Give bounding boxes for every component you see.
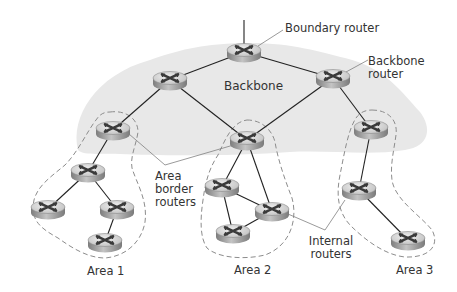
router-icon [391,232,425,251]
router-icon [354,121,388,140]
router-icon [153,72,187,91]
router-icon [71,164,105,183]
router-icon [316,70,350,89]
internal-label-line2: routers [306,248,356,261]
router-icon [255,203,289,222]
router-icon [227,44,261,63]
router-icon [96,122,130,141]
internal-routers-label: Internal routers [306,235,356,261]
area1-label: Area 1 [87,264,124,278]
area3-label: Area 3 [396,263,433,277]
router-icon [205,179,239,198]
router-icon [230,132,264,151]
backbone-label: Backbone [224,79,283,93]
area-border-label-line3: routers [155,196,196,209]
area-border-routers-label: Area border routers [155,170,196,209]
router-icon [31,201,65,220]
router-icon [216,225,250,244]
router-icon [100,201,134,220]
callout-boundary-router [258,30,283,46]
backbone-router-label: Backbone router [368,55,425,81]
router-icon [88,234,122,253]
backbone-router-label-line2: router [368,68,425,81]
router-icon [342,182,376,201]
callout-internal-routers [288,200,345,230]
ospf-hierarchy-diagram [0,0,457,292]
boundary-router-label: Boundary router [285,21,379,35]
area2-label: Area 2 [234,263,271,277]
